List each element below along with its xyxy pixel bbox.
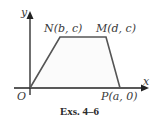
figure-canvas: y x O N(b, c) M(d, c) P(a, 0) Exs. 4–6 xyxy=(0,0,159,124)
y-axis-label: y xyxy=(21,7,27,18)
origin-label: O xyxy=(17,91,26,102)
point-p-label: P(a, 0) xyxy=(101,91,138,102)
y-axis-arrow-icon xyxy=(27,11,34,19)
point-n-label: N(b, c) xyxy=(44,23,82,34)
figure-caption: Exs. 4–6 xyxy=(60,106,99,117)
x-axis-label: x xyxy=(143,76,149,87)
point-m-label: M(d, c) xyxy=(96,23,136,34)
trapezoid-fill xyxy=(30,37,120,88)
